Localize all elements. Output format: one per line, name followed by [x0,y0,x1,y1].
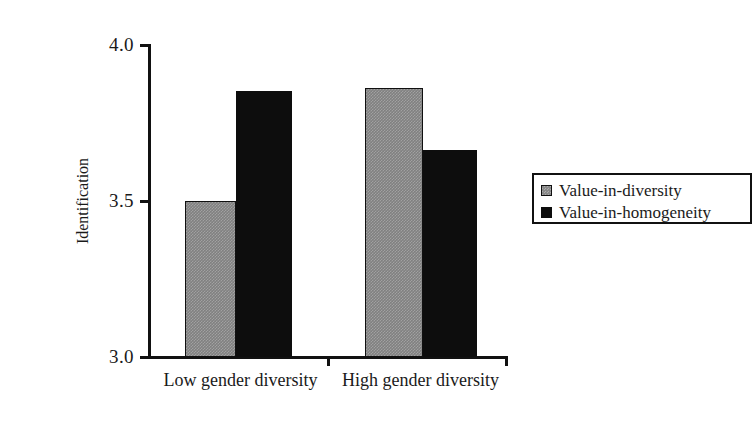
y-axis-tick-label-3-0: 3.0 [88,347,134,366]
legend: Value-in-diversity Value-in-homogeneity [532,173,752,224]
x-axis-tick-end [505,356,508,366]
y-axis-tick-label-4-0: 4.0 [88,35,134,54]
legend-label-value-in-homogeneity: Value-in-homogeneity [559,204,711,221]
gray-square-swatch-icon [541,185,552,196]
bar-high-gender-diversity-value-in-homogeneity [423,150,477,357]
bar-low-gender-diversity-value-in-homogeneity [236,91,292,357]
black-square-swatch-icon [541,207,552,218]
bar-high-gender-diversity-value-in-diversity [365,88,423,357]
bar-low-gender-diversity-value-in-diversity [185,201,236,358]
x-axis-tick-separator [327,356,330,366]
y-axis-tick-4-0 [140,44,151,47]
grouped-bar-chart: 4.0 3.5 3.0 Identification Low gender di… [40,16,756,421]
legend-entry-value-in-diversity: Value-in-diversity [541,179,743,201]
x-axis-category-label-high: High gender diversity [333,369,508,391]
y-axis-tick-label-3-5: 3.5 [88,191,134,210]
y-axis-tick-3-5 [140,200,151,203]
y-axis-title: Identification [75,121,91,281]
legend-entry-value-in-homogeneity: Value-in-homogeneity [541,201,743,223]
x-axis-category-label-low: Low gender diversity [148,369,333,391]
legend-label-value-in-diversity: Value-in-diversity [559,182,682,199]
